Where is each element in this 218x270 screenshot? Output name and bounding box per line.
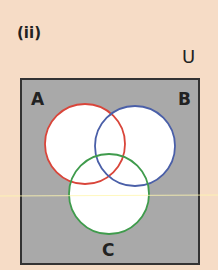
set-a-label: A: [31, 89, 44, 109]
set-c-label: C: [102, 240, 114, 260]
venn-diagram: [0, 0, 218, 270]
set-b-label: B: [178, 89, 191, 109]
